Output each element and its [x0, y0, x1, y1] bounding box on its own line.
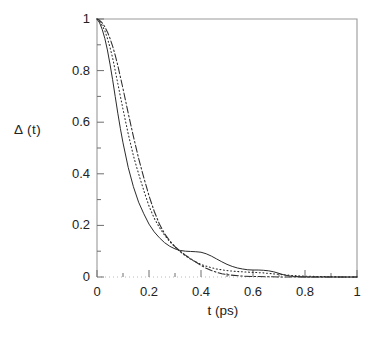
- x-tick-label: 0.6: [228, 285, 278, 298]
- y-tick-label: 0.8: [50, 64, 90, 77]
- x-tick-label: 0.4: [176, 285, 226, 298]
- series-line-dash-dot: [97, 19, 357, 277]
- x-tick-label: 0: [72, 285, 122, 298]
- y-axis-label: Δ (t): [14, 122, 41, 137]
- y-tick-label: 0: [50, 270, 90, 283]
- y-tick-label: 0.2: [50, 218, 90, 231]
- x-tick-label: 1: [332, 285, 382, 298]
- data-series-group: [97, 19, 357, 277]
- y-tick-label: 1: [50, 12, 90, 25]
- x-tick-label: 0.8: [280, 285, 330, 298]
- x-tick-label: 0.2: [124, 285, 174, 298]
- x-axis-label: t (ps): [0, 303, 390, 318]
- y-tick-label: 0.4: [50, 167, 90, 180]
- y-tick-label: 0.6: [50, 115, 90, 128]
- figure: Δ (t) t (ps) 00.20.40.60.81 00.20.40.60.…: [0, 0, 390, 338]
- x-axis-label-text: t (ps): [208, 303, 239, 318]
